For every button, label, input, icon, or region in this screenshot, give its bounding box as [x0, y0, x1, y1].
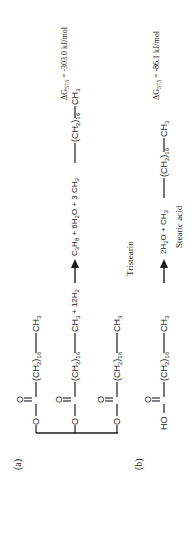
part-b-label: (b)	[134, 458, 144, 470]
product-terminal-b: CH3	[159, 121, 169, 137]
terminal-methyl-b: CH3	[159, 316, 169, 332]
ester-oxygen-1: O	[31, 418, 41, 425]
carbonyl-oxygen-b: O	[143, 396, 153, 403]
chain-b: (CH2)16	[159, 352, 169, 381]
product-chain-a: (CH2)16	[70, 113, 80, 142]
ester-oxygen-3: O	[112, 418, 122, 425]
chain-2: (CH2)16	[70, 352, 80, 381]
terminal-methyl-1: CH3	[31, 316, 41, 332]
terminal-methyl-3: CH3	[112, 316, 122, 332]
hydrogen-reactant: + 12H2	[70, 289, 80, 314]
compound-name-stearic-acid: Stearic acid	[174, 206, 184, 248]
reaction-figure: (a) O O O O O O (CH2)16 CH3 (CH2)16 CH3 …	[0, 0, 190, 538]
carbonyl-oxygen-3: O	[96, 396, 106, 403]
products-a: C3H8 + 6H2O + 3 CH3	[70, 178, 80, 256]
ester-oxygen-2: O	[70, 418, 80, 425]
product-terminal-a: CH3	[70, 89, 80, 105]
products-b: 2H2O + CH3	[159, 210, 169, 254]
part-a-label: (a)	[13, 459, 23, 470]
chain-1: (CH2)16	[31, 352, 41, 381]
carbonyl-oxygen-1: O	[15, 396, 25, 403]
delta-g-a: ΔG573 = -303.0 kJ/mol	[60, 27, 70, 100]
hydroxyl-group: HO	[159, 417, 169, 431]
product-chain-b: (CH2)16	[159, 148, 169, 177]
compound-name-tristearin: Tristearin	[125, 241, 135, 276]
chain-3: (CH2)16	[112, 352, 122, 381]
terminal-methyl-2: CH3	[70, 316, 80, 332]
carbonyl-oxygen-2: O	[54, 396, 64, 403]
delta-g-b: ΔG573 = -86.1 kJ/mol	[152, 31, 162, 100]
